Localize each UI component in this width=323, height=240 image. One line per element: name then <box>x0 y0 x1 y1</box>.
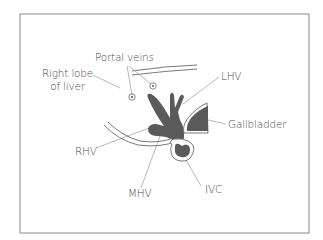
ivc-shape <box>171 139 194 161</box>
hepatic-veins-shape <box>147 93 184 142</box>
label-lhv: LHV <box>221 70 241 82</box>
label-right-lobe-line2: of liver <box>40 80 95 92</box>
capsule-lines <box>132 65 197 75</box>
label-portal-veins: Portal veins <box>95 51 154 63</box>
gallbladder-shape <box>184 103 209 133</box>
portal-vein-2-icon <box>150 83 156 89</box>
label-mhv: MHV <box>128 187 152 199</box>
label-rhv: RHV <box>75 145 97 157</box>
label-ivc: IVC <box>205 183 222 195</box>
label-gallbladder: Gallbladder <box>228 118 286 130</box>
label-right-lobe-line1: Right lobe <box>40 67 95 79</box>
